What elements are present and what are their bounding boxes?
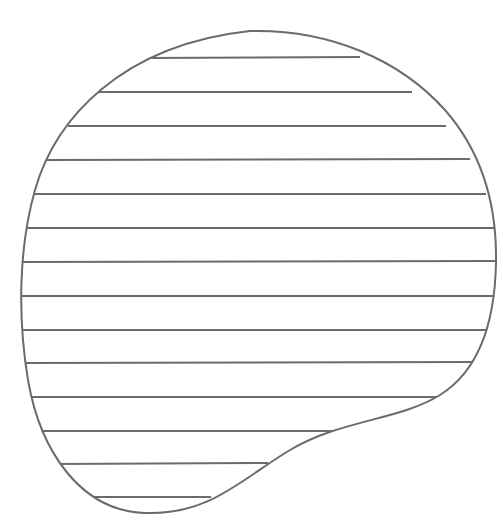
hatched-blob-figure [0, 0, 503, 532]
hatch-line [146, 57, 360, 58]
hatch-line [17, 261, 502, 262]
hatch-line [20, 362, 474, 363]
hatch-line [54, 463, 268, 464]
blob-outline [21, 31, 496, 513]
hatch-line [46, 159, 470, 160]
blob-svg [0, 0, 503, 532]
hatch-lines [15, 57, 502, 497]
